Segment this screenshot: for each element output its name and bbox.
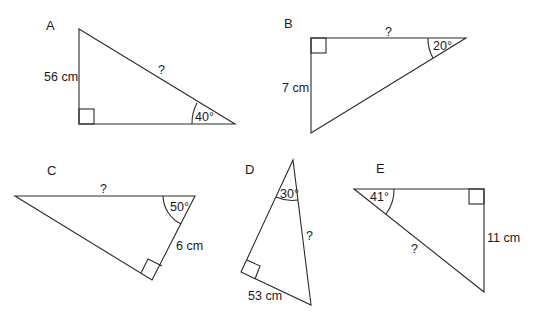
triangle-e: E 41° ? 11 cm [354, 161, 520, 292]
triangle-b-side-length: 7 cm [282, 81, 309, 95]
triangle-b-unknown: ? [385, 25, 392, 39]
triangle-d-side-length: 53 cm [248, 289, 282, 303]
triangle-c-label: C [47, 163, 56, 178]
triangle-a-side-length: 56 cm [44, 70, 78, 84]
triangle-e-side-length: 11 cm [487, 231, 520, 245]
triangle-e-outline [354, 189, 484, 292]
triangle-a: A 56 cm ? 40° [44, 18, 235, 124]
triangle-d-unknown: ? [306, 229, 313, 243]
triangle-e-unknown: ? [411, 242, 418, 256]
triangle-c-side-length: 6 cm [176, 239, 203, 253]
triangle-d-angle: 30° [280, 187, 299, 201]
triangle-e-label: E [376, 161, 385, 176]
right-angle-marker-b [311, 38, 326, 53]
triangle-c: C ? 50° 6 cm [15, 163, 203, 280]
triangle-b-label: B [284, 16, 293, 31]
triangle-c-unknown: ? [100, 182, 107, 196]
triangle-d-outline [241, 160, 311, 305]
triangle-b-angle: 20° [433, 39, 452, 53]
triangle-d: D 30° ? 53 cm [241, 160, 313, 305]
triangle-a-label: A [46, 18, 55, 33]
right-angle-marker-e [469, 189, 484, 204]
right-angle-marker-a [79, 109, 94, 124]
triangles-diagram: A 56 cm ? 40° B 7 cm ? 20° C ? 50° 6 cm … [0, 0, 534, 323]
triangle-d-label: D [245, 162, 254, 177]
triangle-a-angle: 40° [195, 110, 214, 124]
triangle-b: B 7 cm ? 20° [282, 16, 466, 133]
triangle-a-unknown: ? [158, 63, 165, 77]
triangle-e-angle: 41° [370, 190, 389, 204]
triangle-c-outline [15, 196, 195, 280]
triangle-c-angle: 50° [170, 200, 189, 214]
